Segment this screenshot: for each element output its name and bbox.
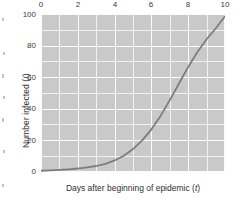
x-axis-title-symbol: t [195,183,197,193]
x-tick-label-6: 6 [141,0,161,9]
plot-area [41,14,225,172]
y-axis-title-symbol: I [21,76,31,78]
x-tick-label-2: 2 [68,0,88,9]
y-axis-title: Number infected (I) [21,73,31,148]
chart-figure: 100 80 60 40 20 0 0 2 4 6 8 10 Days afte… [0,0,236,198]
y-tick-label-80: 80 [14,41,36,50]
infection-curve [41,14,225,172]
x-axis-title: Days after beginning of epidemic (t) [41,183,225,193]
x-axis-title-text: Days after beginning of epidemic [66,183,190,193]
y-tick-label-0: 0 [14,167,36,176]
y-axis-title-text: Number infected [21,84,31,148]
x-tick-label-8: 8 [178,0,198,9]
x-tick-label-4: 4 [105,0,125,9]
x-tick-label-10: 10 [215,0,235,9]
x-tick-label-0: 0 [31,0,51,9]
y-tick-label-100: 100 [14,10,36,19]
scan-edge-artifact [0,0,9,198]
